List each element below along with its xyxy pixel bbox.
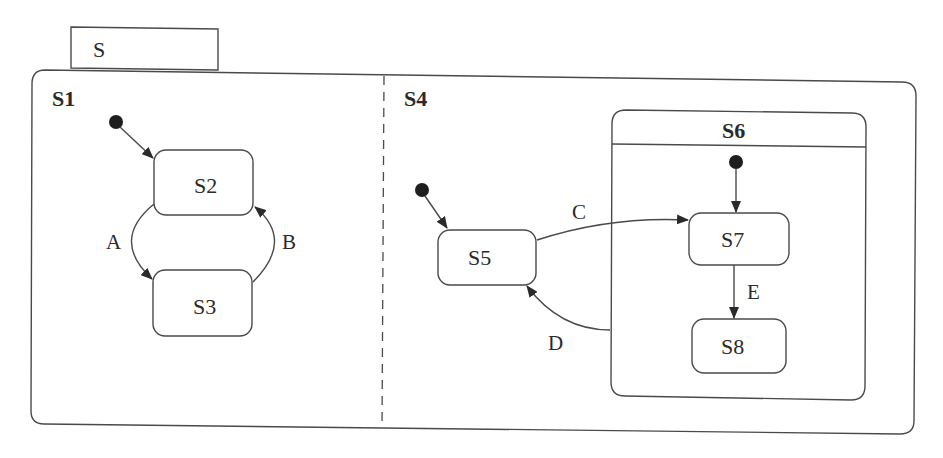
region-S1-label: S1 [52,86,75,111]
transition-D[interactable] [527,286,610,330]
state-diagram: S S1 S2 S3 A B S4 S5 S6 S7 S8 E [0,0,943,458]
state-S5-label: S5 [468,245,491,270]
transition-A[interactable] [131,204,154,279]
transition-B[interactable] [253,207,275,282]
transition-C[interactable] [537,219,688,240]
state-S5[interactable]: S5 [438,230,536,285]
state-S3[interactable]: S3 [153,270,252,336]
state-S-label: S [93,37,105,62]
state-S-tab[interactable]: S [71,27,218,70]
state-S7[interactable]: S7 [689,213,789,265]
state-S7-label: S7 [721,227,744,252]
transition-E-label: E [747,280,760,304]
initial-state-S4-icon [415,183,429,197]
transition-B-label: B [282,230,296,254]
region-S4-label: S4 [404,86,427,111]
region-divider [382,76,384,427]
state-S3-label: S3 [193,294,216,319]
transition-A-label: A [106,230,122,254]
state-S8-label: S8 [721,334,744,359]
state-S2-label: S2 [194,173,217,198]
initial-transition-S5 [425,196,447,228]
state-S8[interactable]: S8 [692,319,786,373]
initial-state-S6-icon [729,155,743,169]
state-S2[interactable]: S2 [154,150,253,215]
transition-C-label: C [572,200,586,224]
transition-D-label: D [548,331,563,355]
initial-transition-S2 [120,127,153,158]
state-S6-label: S6 [722,118,745,143]
